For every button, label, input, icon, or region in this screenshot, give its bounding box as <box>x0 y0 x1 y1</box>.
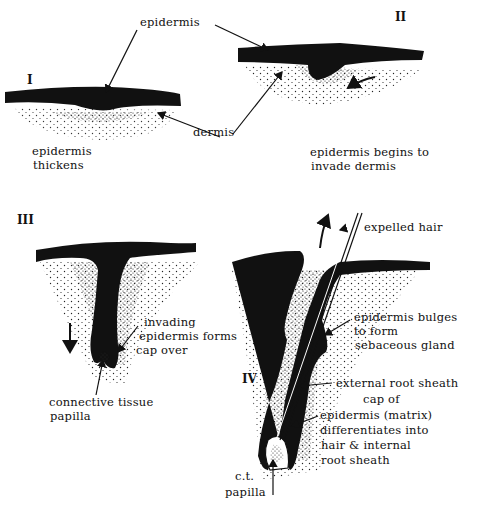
label-sebaceous-2: to form <box>354 325 398 338</box>
stage-1-caption-line2: thickens <box>33 159 84 172</box>
label-invading-1: invading <box>144 316 196 329</box>
label-matrix-4: hair & internal <box>321 439 411 452</box>
label-sebaceous-3: sebaceous gland <box>355 339 455 352</box>
label-matrix-3: differentiates into <box>320 424 429 437</box>
stage-1-caption-line1: epidermis <box>32 145 92 158</box>
stage-2-drawing <box>238 43 424 105</box>
label-connective-tissue: connective tissue <box>49 396 153 409</box>
label-dermis: dermis <box>193 126 234 139</box>
stage-1-drawing <box>5 87 181 140</box>
stage-4-numeral: IV <box>242 372 257 386</box>
label-external-root-sheath: external root sheath <box>336 377 458 390</box>
label-invading-3: cap over <box>136 344 188 357</box>
label-matrix-5: root sheath <box>321 454 390 467</box>
hair-follicle-diagram: I II III IV epidermis thickens epidermis… <box>0 0 485 512</box>
stage-3-numeral: III <box>17 213 34 227</box>
label-ct: c.t. <box>235 470 254 483</box>
label-sebaceous-1: epidermis bulges <box>354 311 457 324</box>
stage-2-caption-line1: epidermis begins to <box>310 146 429 159</box>
label-invading-2: epidermis forms <box>139 330 237 343</box>
stage-1-numeral: I <box>27 73 33 87</box>
stage-2-numeral: II <box>395 10 406 24</box>
label-papilla: papilla <box>50 410 91 423</box>
label-matrix-2: epidermis (matrix) <box>320 409 432 422</box>
label-matrix-1: cap of <box>363 393 400 406</box>
label-expelled-hair: expelled hair <box>364 221 443 234</box>
stage-3-drawing <box>36 242 200 385</box>
label-epidermis: epidermis <box>140 16 200 29</box>
label-ct-papilla: papilla <box>225 486 266 499</box>
stage-2-caption-line2: invade dermis <box>311 160 396 173</box>
